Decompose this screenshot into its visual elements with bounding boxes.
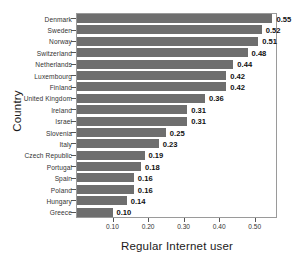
bar-value-label: 0.48	[252, 48, 267, 57]
y-tick-mark	[71, 98, 76, 99]
bar-row: Hungary0.14	[0, 195, 306, 206]
bar-row: Italy0.23	[0, 138, 306, 149]
bar-row: Luxembourg0.42	[0, 70, 306, 81]
bar	[77, 128, 166, 137]
bar	[77, 37, 258, 46]
bar	[77, 139, 159, 148]
category-label: Slovenia	[46, 129, 72, 136]
y-tick-mark	[71, 75, 76, 76]
bar-value-label: 0.16	[138, 174, 153, 183]
bar-row: Poland0.16	[0, 184, 306, 195]
bar-value-label: 0.23	[163, 139, 178, 148]
y-tick-mark	[71, 166, 76, 167]
x-tick-label: 0.30	[177, 223, 190, 230]
bar-value-label: 0.42	[230, 71, 245, 80]
bar	[77, 105, 187, 114]
bar-row: Czech Republic0.19	[0, 150, 306, 161]
x-tick-mark	[148, 218, 149, 222]
x-tick-label: 0.40	[213, 223, 226, 230]
bar	[77, 162, 141, 171]
bar-value-label: 0.31	[191, 105, 206, 114]
bar-row: Finland0.42	[0, 81, 306, 92]
y-tick-mark	[71, 52, 76, 53]
bar-row: Switzerland0.48	[0, 47, 306, 58]
bar-row: Sweden0.52	[0, 24, 306, 35]
y-tick-mark	[71, 30, 76, 31]
bar	[77, 151, 145, 160]
bar-row: Netherlands0.44	[0, 59, 306, 70]
bar-value-label: 0.36	[209, 94, 224, 103]
category-label: Hungary	[46, 197, 72, 204]
y-tick-mark	[71, 132, 76, 133]
category-label: Spain	[55, 175, 72, 182]
bar	[77, 82, 226, 91]
category-label: Greece	[50, 209, 72, 216]
bar	[77, 196, 127, 205]
bar	[77, 173, 134, 182]
bar-value-label: 0.25	[170, 128, 185, 137]
y-tick-mark	[71, 155, 76, 156]
bar	[77, 185, 134, 194]
bar-value-label: 0.31	[191, 117, 206, 126]
y-tick-mark	[71, 189, 76, 190]
y-tick-mark	[71, 178, 76, 179]
x-axis-title: Regular Internet user	[76, 240, 278, 252]
bar-value-label: 0.55	[276, 14, 291, 23]
bar-value-label: 0.18	[145, 162, 160, 171]
category-label: Sweden	[48, 27, 72, 34]
bar-row: Greece0.10	[0, 207, 306, 218]
category-label: Czech Republic	[24, 152, 72, 159]
y-tick-mark	[71, 41, 76, 42]
y-tick-mark	[71, 212, 76, 213]
bar	[77, 208, 113, 217]
x-tick-label: 0.20	[142, 223, 155, 230]
x-tick-mark	[184, 218, 185, 222]
x-tick-label: 0.10	[106, 223, 119, 230]
bar	[77, 25, 262, 34]
bar-rows: Denmark0.55Sweden0.52Norway0.51Switzerla…	[0, 13, 306, 218]
category-label: Switzerland	[37, 49, 72, 56]
y-tick-mark	[71, 109, 76, 110]
bar-value-label: 0.52	[266, 26, 281, 35]
bar-value-label: 0.10	[117, 208, 132, 217]
bar	[77, 48, 248, 57]
bar-row: United Kingdom0.36	[0, 93, 306, 104]
x-tick-mark	[255, 218, 256, 222]
bar-row: Denmark0.55	[0, 13, 306, 24]
bar-row: Israel0.31	[0, 116, 306, 127]
bar-value-label: 0.42	[230, 83, 245, 92]
y-tick-mark	[71, 200, 76, 201]
bar-value-label: 0.51	[262, 37, 277, 46]
category-label: Denmark	[45, 15, 72, 22]
x-tick-mark	[219, 218, 220, 222]
category-label: Ireland	[51, 106, 72, 113]
bar-value-label: 0.19	[149, 151, 164, 160]
category-label: Poland	[51, 186, 72, 193]
category-label: Netherlands	[35, 61, 72, 68]
bar	[77, 14, 272, 23]
bar	[77, 94, 205, 103]
category-label: Portugal	[47, 163, 72, 170]
x-tick-mark	[113, 218, 114, 222]
bar-value-label: 0.44	[237, 60, 252, 69]
y-tick-mark	[71, 64, 76, 65]
category-label: Israel	[55, 118, 72, 125]
x-axis-ticks: 0.100.200.300.400.50	[0, 218, 306, 240]
bar-chart: Country Denmark0.55Sweden0.52Norway0.51S…	[0, 0, 306, 264]
bar-row: Spain0.16	[0, 172, 306, 183]
category-label: United Kingdom	[24, 95, 72, 102]
y-tick-mark	[71, 121, 76, 122]
bar-row: Ireland0.31	[0, 104, 306, 115]
bar-row: Slovenia0.25	[0, 127, 306, 138]
y-tick-mark	[71, 143, 76, 144]
category-label: Finland	[50, 84, 72, 91]
bar	[77, 60, 233, 69]
y-tick-mark	[71, 87, 76, 88]
bar-value-label: 0.14	[131, 196, 146, 205]
bar-value-label: 0.16	[138, 185, 153, 194]
bar	[77, 117, 187, 126]
category-label: Luxembourg	[34, 72, 72, 79]
x-tick-label: 0.50	[248, 223, 261, 230]
bar-row: Norway0.51	[0, 36, 306, 47]
bar-row: Portugal0.18	[0, 161, 306, 172]
